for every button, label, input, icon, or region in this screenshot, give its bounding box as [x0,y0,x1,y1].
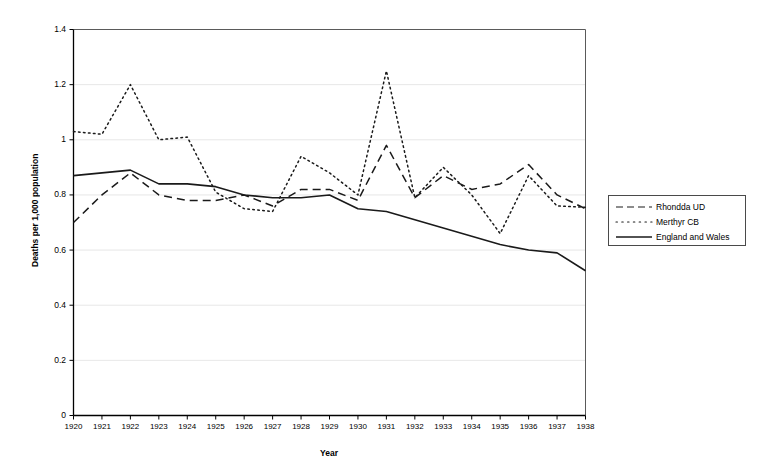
series-line-england-and-wales [74,170,586,271]
dotted-line-icon [615,217,653,227]
dashed-line-icon [615,202,653,212]
legend-label: England and Wales [656,232,729,242]
solid-line-icon [615,232,653,242]
chart-legend: Rhondda UD Merthyr CB England and Wales [608,195,746,246]
legend-label: Merthyr CB [656,217,699,227]
legend-item-rhondda-ud: Rhondda UD [615,199,705,214]
legend-item-merthyr-cb: Merthyr CB [615,214,699,229]
legend-label: Rhondda UD [656,202,705,212]
chart-figure: Deaths per 1,000 population Year 00.20.4… [0,0,761,476]
series-line-merthyr-cb [74,71,586,234]
series-line-rhondda-ud [74,145,586,222]
legend-item-england-and-wales: England and Wales [615,229,729,244]
